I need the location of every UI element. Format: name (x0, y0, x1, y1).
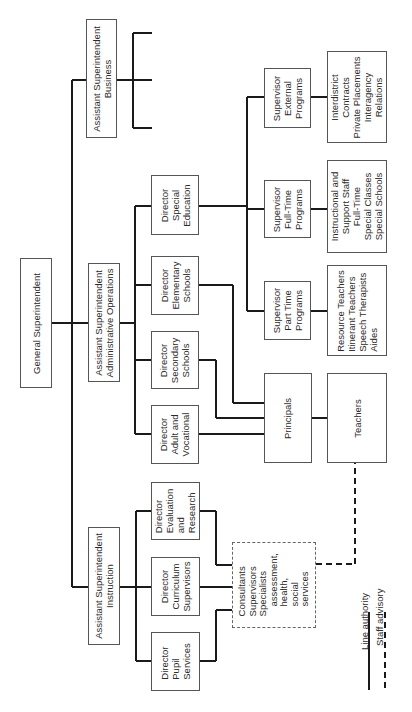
general-superintendent-label: General Superintendent (31, 273, 42, 374)
asst-business-label: Assistant Superintendent Business (91, 26, 113, 132)
dir-evaluation-label: Director Evaluation and Research (154, 489, 198, 533)
asst-superintendent-admin-box: Assistant Superintendent Administrative … (88, 263, 120, 382)
director-elementary-schools-box: Director Elementary Schools (151, 256, 199, 315)
supervisor-external-programs-box: Supervisor External Programs (264, 68, 311, 128)
teachers-label: Teachers (352, 399, 363, 438)
director-adult-vocational-box: Director Adult and Vocational (151, 405, 199, 464)
director-special-education-box: Director Special Education (151, 175, 199, 235)
legend-staff-advisory: Staff advisory (374, 589, 385, 646)
asst-admin-label: Assistant Superintendent Administrative … (93, 268, 115, 377)
parttime-list-label: Resource Teachers Itinerant Teachers Spe… (335, 270, 379, 352)
director-pupil-services-box: Director Pupil Services (151, 632, 200, 691)
director-evaluation-research-box: Director Evaluation and Research (151, 482, 200, 540)
dir-adult-label: Director Adult and Vocational (159, 413, 192, 457)
external-list-label: Interdistrict Contracts Private Placemen… (330, 56, 385, 138)
dir-elementary-label: Director Elementary Schools (159, 261, 192, 309)
sup-parttime-label: Supervisor Part Time Programs (271, 288, 304, 333)
parttime-programs-list-box: Resource Teachers Itinerant Teachers Spe… (327, 265, 387, 356)
principals-label: Principals (283, 397, 294, 438)
dir-curriculum-label: Director Curriculum Supervisors (159, 561, 192, 611)
director-secondary-schools-box: Director Secondary Schools (151, 331, 199, 389)
dir-pupil-label: Director Pupil Services (159, 643, 192, 679)
supervisor-parttime-programs-box: Supervisor Part Time Programs (264, 281, 311, 340)
fulltime-programs-list-box: Instructional and Support Staff Full-Tim… (327, 160, 387, 253)
asst-instruction-label: Assistant Superintendent Instruction (93, 533, 115, 639)
external-programs-list-box: Interdistrict Contracts Private Placemen… (327, 51, 387, 143)
asst-superintendent-instruction-box: Assistant Superintendent Instruction (88, 527, 120, 645)
dir-special-ed-label: Director Special Education (158, 184, 191, 226)
dir-secondary-label: Director Secondary Schools (158, 337, 191, 382)
sup-fulltime-label: Supervisor Full-Time Programs (271, 186, 304, 231)
sup-external-label: Supervisor External Programs (271, 75, 304, 120)
principals-box: Principals (264, 373, 312, 463)
legend-line-authority: Line authority (359, 593, 370, 650)
fulltime-list-label: Instructional and Support Staff Full-Tim… (330, 172, 385, 242)
general-superintendent-box: General Superintendent (20, 258, 52, 388)
supervisor-fulltime-programs-box: Supervisor Full-Time Programs (264, 180, 311, 238)
asst-superintendent-business-box: Assistant Superintendent Business (86, 19, 117, 138)
teachers-box: Teachers (327, 373, 387, 463)
director-curriculum-box: Director Curriculum Supervisors (151, 557, 200, 616)
consultants-box: Consultants Supervisors Specialists asse… (232, 542, 316, 628)
consultants-label: Consultants Supervisors Specialists asse… (237, 553, 311, 616)
